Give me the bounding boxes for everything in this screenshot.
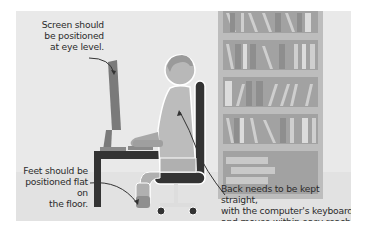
annotation-feet: Feet should be positioned flat on the fl… xyxy=(16,165,88,209)
annotation-feet-line-1: Feet should be xyxy=(16,165,88,176)
annotation-back-line-1: Back needs to be kept straight, xyxy=(221,183,351,205)
annotation-back-line-3: and mouse within easy reach. xyxy=(221,216,351,221)
annotation-feet-line-2: positioned flat on xyxy=(16,176,88,198)
annotation-back: Back needs to be kept straight, with the… xyxy=(221,183,351,221)
annotation-screen-line-2: be positioned xyxy=(26,30,104,41)
monitor-icon xyxy=(100,60,126,152)
bookshelf-icon xyxy=(218,11,323,199)
annotation-back-line-2: with the computer's keyboard xyxy=(221,205,351,216)
annotation-screen: Screen should be positioned at eye level… xyxy=(26,19,104,52)
annotation-screen-line-3: at eye level. xyxy=(26,41,104,52)
annotation-feet-line-3: the floor. xyxy=(16,198,88,209)
seated-person-icon xyxy=(131,55,196,208)
annotation-screen-line-1: Screen should xyxy=(26,19,104,30)
ergonomics-illustration-panel: Screen should be positioned at eye level… xyxy=(16,11,351,221)
